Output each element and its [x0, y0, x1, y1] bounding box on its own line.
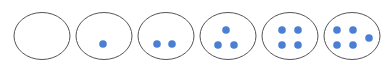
- dot: [333, 41, 341, 49]
- dot: [230, 41, 238, 49]
- ellipse-outline: [14, 13, 70, 60]
- dot: [153, 40, 161, 48]
- dot: [365, 34, 373, 42]
- ellipse-outline: [200, 13, 256, 60]
- dot-count-diagram: [0, 0, 389, 65]
- ellipse-outline: [262, 13, 318, 60]
- dot-group-2: [138, 13, 194, 60]
- dot-group-4: [262, 13, 318, 60]
- dot: [214, 41, 222, 49]
- dot: [294, 41, 302, 49]
- dot: [222, 26, 230, 34]
- dot: [168, 40, 176, 48]
- dot: [333, 26, 341, 34]
- dot: [349, 26, 357, 34]
- ellipse-outline: [138, 13, 194, 60]
- dot: [278, 26, 286, 34]
- dot-group-3: [200, 13, 256, 60]
- dot-group-5: [324, 13, 380, 60]
- dot-group-0: [14, 13, 70, 60]
- ellipse-outline: [76, 13, 132, 60]
- dot: [349, 41, 357, 49]
- dot: [278, 41, 286, 49]
- dot: [294, 26, 302, 34]
- dot: [99, 40, 107, 48]
- dot-group-1: [76, 13, 132, 60]
